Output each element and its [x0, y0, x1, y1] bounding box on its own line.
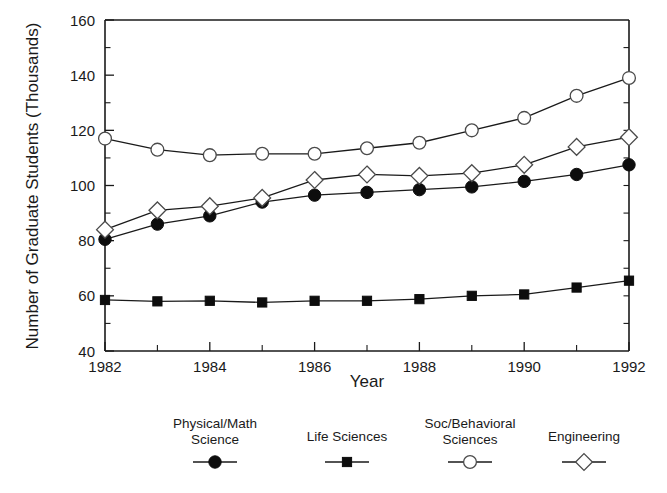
x-tick-label: 1984: [193, 358, 226, 375]
y-tick-label: 120: [70, 122, 95, 139]
data-point-marker: [203, 149, 216, 162]
data-point-marker: [256, 147, 269, 160]
data-point-marker: [205, 296, 214, 305]
data-point-marker: [209, 456, 221, 468]
data-point-marker: [308, 189, 320, 201]
data-point-marker: [361, 186, 373, 198]
legend-label: Sciences: [443, 432, 498, 447]
x-tick-label: 1992: [612, 358, 645, 375]
data-point-marker: [570, 89, 583, 102]
data-point-marker: [624, 276, 633, 285]
data-point-marker: [99, 132, 112, 145]
data-point-marker: [465, 124, 478, 137]
data-point-marker: [310, 296, 319, 305]
data-point-marker: [572, 283, 581, 292]
data-point-marker: [464, 456, 477, 469]
data-point-marker: [342, 457, 351, 466]
data-point-marker: [258, 298, 267, 307]
y-tick-label: 60: [78, 287, 95, 304]
y-tick-label: 100: [70, 177, 95, 194]
data-point-marker: [100, 295, 109, 304]
legend-label: Soc/Behavioral: [425, 416, 516, 431]
data-point-marker: [413, 136, 426, 149]
legend-label: Life Sciences: [307, 429, 388, 444]
data-point-marker: [362, 296, 371, 305]
legend-label: Engineering: [548, 429, 620, 444]
data-point-marker: [570, 168, 582, 180]
legend-label: Science: [191, 432, 239, 447]
data-point-marker: [466, 181, 478, 193]
x-tick-label: 1988: [403, 358, 436, 375]
x-axis-title: Year: [350, 372, 385, 391]
chart-background: [0, 0, 667, 493]
y-tick-label: 160: [70, 12, 95, 29]
data-point-marker: [520, 290, 529, 299]
data-point-marker: [413, 183, 425, 195]
data-point-marker: [151, 143, 164, 156]
data-point-marker: [415, 295, 424, 304]
y-tick-label: 140: [70, 67, 95, 84]
y-axis-title: Number of Graduate Students (Thousands): [23, 23, 42, 350]
y-tick-label: 40: [78, 343, 95, 360]
y-tick-label: 80: [78, 232, 95, 249]
data-point-marker: [467, 291, 476, 300]
x-tick-label: 1982: [88, 358, 121, 375]
data-point-marker: [623, 159, 635, 171]
legend-label: Physical/Math: [173, 416, 257, 431]
x-tick-label: 1986: [298, 358, 331, 375]
line-chart: 406080100120140160 198219841986198819901…: [0, 0, 667, 493]
chart-figure: 406080100120140160 198219841986198819901…: [0, 0, 667, 493]
data-point-marker: [518, 112, 531, 125]
data-point-marker: [308, 147, 321, 160]
data-point-marker: [153, 297, 162, 306]
data-point-marker: [151, 218, 163, 230]
data-point-marker: [518, 175, 530, 187]
data-point-marker: [623, 72, 636, 85]
data-point-marker: [361, 142, 374, 155]
x-tick-label: 1990: [508, 358, 541, 375]
